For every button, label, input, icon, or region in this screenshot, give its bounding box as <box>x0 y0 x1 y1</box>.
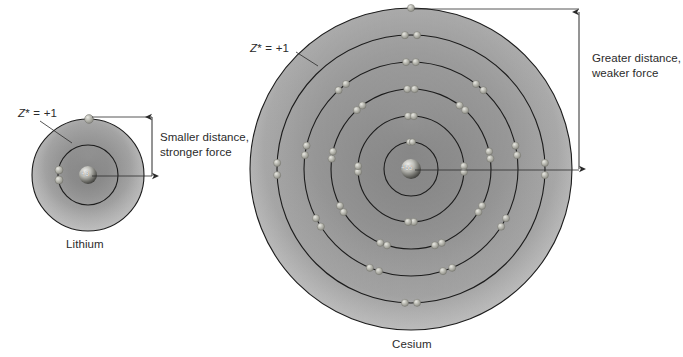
cesium-electron <box>431 242 438 249</box>
cesium-electron <box>514 152 521 159</box>
smaller-distance-line2: stronger force <box>160 146 232 158</box>
cesium-electron <box>354 163 361 170</box>
cesium-atom <box>250 4 579 330</box>
cesium-electron <box>342 80 349 87</box>
cesium-electron <box>411 85 418 92</box>
cesium-electron <box>329 148 336 155</box>
smaller-distance-line1: Smaller distance, <box>160 131 249 143</box>
cesium-electron <box>410 112 417 119</box>
cesium-electron <box>487 155 494 162</box>
cesium-electron <box>336 202 343 209</box>
cesium-electron <box>407 4 414 11</box>
cesium-electron <box>405 218 412 225</box>
cesium-electron <box>401 299 408 306</box>
greater-distance-line2: weaker force <box>592 67 658 79</box>
cesium-electron <box>498 223 505 230</box>
cesium-electron <box>409 139 415 145</box>
cesium-electron <box>359 102 366 109</box>
cesium-electron <box>541 159 548 166</box>
cesium-electron <box>462 107 469 114</box>
cesium-electron <box>401 32 408 39</box>
cesium-electron <box>502 215 509 222</box>
lithium-nucleus-charge-label: +3 <box>81 170 89 179</box>
smaller-distance-annotation: Smaller distance,stronger force <box>160 130 249 159</box>
atomic-radius-comparison-figure: Z* = +1 Z* = +1 Smaller distance,stronge… <box>0 0 683 357</box>
cesium-electron <box>274 171 281 178</box>
cesium-electron <box>335 87 342 94</box>
cesium-electron <box>480 87 487 94</box>
cesium-electron <box>377 239 384 246</box>
cesium-electron <box>340 209 347 216</box>
cesium-electron <box>413 299 420 306</box>
cesium-electron <box>403 59 410 66</box>
lithium-valence-electron <box>85 115 94 124</box>
cesium-electron <box>366 264 373 271</box>
cesium-electron <box>478 202 485 209</box>
cesium-electron <box>475 209 482 216</box>
cesium-electron <box>460 168 467 175</box>
cesium-electron <box>439 268 446 275</box>
lithium-core-electron <box>55 176 63 184</box>
cesium-nucleus-charge-label: +55 <box>401 164 412 173</box>
cesium-electron <box>303 142 310 149</box>
lithium-z-value: = +1 <box>30 107 57 119</box>
cesium-electron <box>413 32 420 39</box>
greater-distance-annotation: Greater distance,weaker force <box>592 51 681 80</box>
cesium-electron <box>317 223 324 230</box>
cesium-electron <box>438 239 445 246</box>
cesium-electron <box>449 264 456 271</box>
greater-distance-line1: Greater distance, <box>592 52 681 64</box>
cesium-electron <box>404 85 411 92</box>
cesium-electron <box>312 215 319 222</box>
cesium-electron <box>301 152 308 159</box>
lithium-effective-charge-label: Z* = +1 <box>18 106 57 121</box>
cesium-electron <box>485 148 492 155</box>
cesium-z-value: = +1 <box>262 42 289 54</box>
cesium-caption: Cesium <box>392 337 432 352</box>
lithium-atom <box>32 115 152 231</box>
cesium-effective-charge-label: Z* = +1 <box>250 41 289 56</box>
figure-canvas <box>0 0 683 357</box>
cesium-electron <box>375 268 382 275</box>
cesium-electron <box>274 159 281 166</box>
cesium-electron <box>472 80 479 87</box>
lithium-core-electron <box>55 166 63 174</box>
cesium-electron <box>512 142 519 149</box>
cesium-electron <box>412 59 419 66</box>
lithium-caption: Lithium <box>66 237 104 252</box>
cesium-electron <box>383 242 390 249</box>
cesium-electron <box>541 171 548 178</box>
cesium-electron <box>328 155 335 162</box>
